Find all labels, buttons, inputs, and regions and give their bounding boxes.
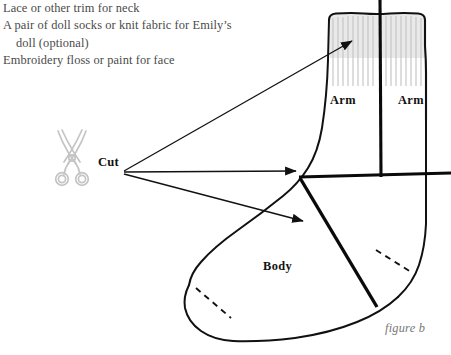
cut-callout-arrows xyxy=(0,0,451,355)
figure-caption: figure b xyxy=(385,321,425,336)
arm-label-left: Arm xyxy=(330,93,356,108)
body-label: Body xyxy=(263,259,292,274)
arrow-to-ankle-cut xyxy=(124,171,296,172)
cut-label: Cut xyxy=(98,155,119,170)
arrow-to-cuff xyxy=(124,41,352,171)
arrow-to-body-cut xyxy=(124,174,303,221)
arm-label-right: Arm xyxy=(398,93,424,108)
figure-b-illustration: Lace or other trim for neck A pair of do… xyxy=(0,0,451,355)
